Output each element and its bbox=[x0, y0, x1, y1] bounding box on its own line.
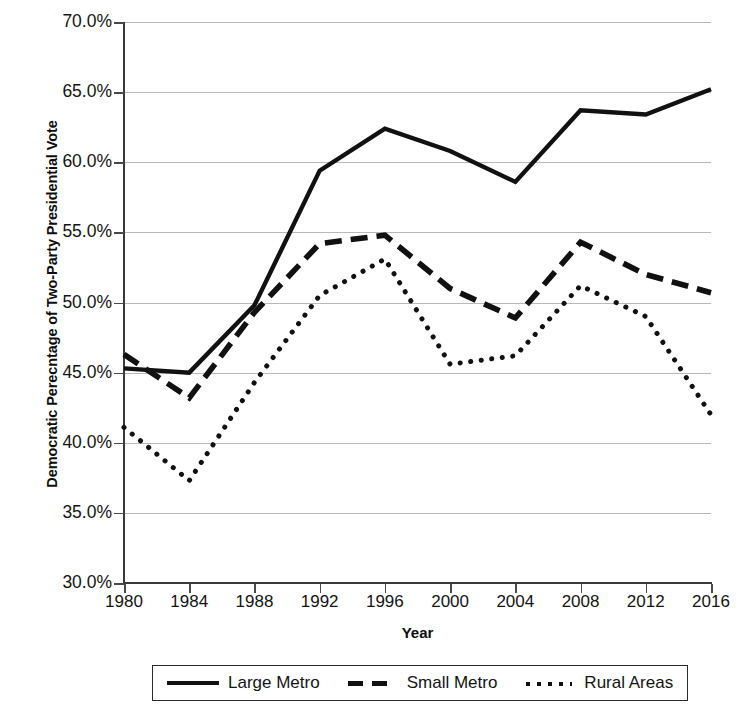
y-axis-tick bbox=[114, 373, 124, 375]
legend-swatch-solid-icon bbox=[167, 675, 219, 691]
x-axis-tick bbox=[254, 584, 256, 593]
y-axis-tick bbox=[114, 303, 124, 305]
legend-item[interactable]: Small Metro bbox=[346, 673, 498, 693]
data-series-layer bbox=[0, 0, 737, 714]
x-axis-tick bbox=[450, 584, 452, 593]
x-axis-tick bbox=[515, 584, 517, 593]
x-axis-tick bbox=[189, 584, 191, 593]
legend-label: Small Metro bbox=[407, 673, 498, 693]
y-axis-tick bbox=[114, 513, 124, 515]
legend-label: Rural Areas bbox=[584, 673, 673, 693]
series-line-large-metro bbox=[124, 89, 711, 372]
y-axis-tick bbox=[114, 232, 124, 234]
x-axis-tick bbox=[320, 584, 322, 593]
legend-swatch-dotted-icon bbox=[523, 675, 575, 691]
line-chart: Democratic Perecntage of Two-Party Presi… bbox=[0, 0, 737, 714]
x-axis-tick bbox=[385, 584, 387, 593]
legend-label: Large Metro bbox=[228, 673, 320, 693]
x-axis-tick bbox=[711, 584, 713, 593]
x-axis-tick bbox=[646, 584, 648, 593]
y-axis-tick bbox=[114, 92, 124, 94]
y-axis-tick bbox=[114, 162, 124, 164]
x-axis-tick bbox=[124, 584, 126, 593]
legend-swatch-dashed-icon bbox=[346, 675, 398, 691]
x-axis-tick bbox=[581, 584, 583, 593]
y-axis-tick bbox=[114, 583, 124, 585]
y-axis-tick bbox=[114, 443, 124, 445]
series-line-small-metro bbox=[124, 235, 711, 398]
y-axis-tick bbox=[114, 22, 124, 24]
legend-item[interactable]: Large Metro bbox=[167, 673, 320, 693]
legend-item[interactable]: Rural Areas bbox=[523, 673, 673, 693]
chart-legend: Large MetroSmall MetroRural Areas bbox=[152, 665, 688, 701]
